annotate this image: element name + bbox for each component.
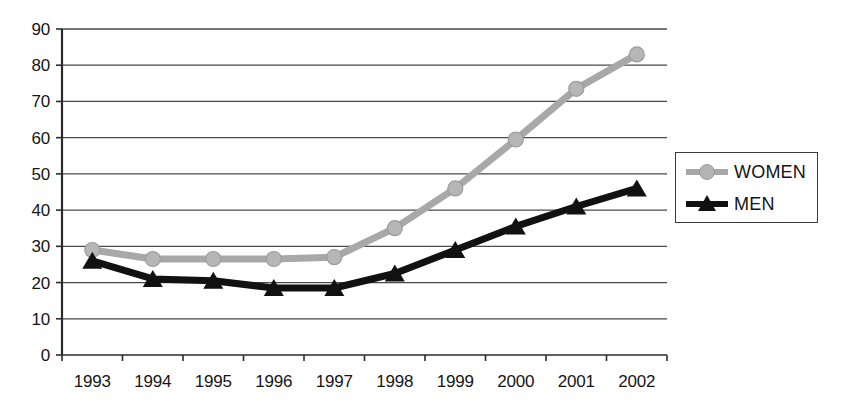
x-tick-label: 1999 [425, 373, 486, 390]
x-tick-label: 1997 [304, 373, 365, 390]
legend-label-men: MEN [734, 194, 775, 215]
series-line [92, 188, 637, 288]
y-tick-label: 50 [6, 166, 50, 183]
x-axis-ticks [62, 355, 667, 361]
x-tick-label: 1993 [62, 373, 123, 390]
triangle-marker-icon [684, 193, 730, 215]
data-point-marker [266, 252, 281, 267]
legend-item-men[interactable]: MEN [684, 193, 775, 215]
x-tick-label: 2002 [607, 373, 668, 390]
y-tick-label: 40 [6, 202, 50, 219]
data-point-marker [145, 252, 160, 267]
series-men [82, 179, 647, 296]
x-tick-label: 1994 [123, 373, 184, 390]
series-women [85, 47, 645, 267]
x-tick-label: 2000 [486, 373, 547, 390]
y-tick-label: 10 [6, 311, 50, 328]
legend-item-women[interactable]: WOMEN [684, 161, 806, 183]
y-tick-label: 60 [6, 130, 50, 147]
y-tick-label: 20 [6, 275, 50, 292]
line-chart: 0102030405060708090 19931994199519961997… [0, 0, 842, 413]
y-tick-label: 70 [6, 93, 50, 110]
data-point-marker [508, 132, 523, 147]
circle-marker-icon [684, 161, 730, 183]
data-point-marker [448, 181, 463, 196]
data-point-marker [387, 221, 402, 236]
x-tick-label: 1996 [244, 373, 305, 390]
x-tick-label: 1995 [183, 373, 244, 390]
series-line [92, 54, 637, 259]
data-point-marker [629, 47, 644, 62]
data-point-marker [569, 81, 584, 96]
data-point-marker [327, 250, 342, 265]
chart-legend: WOMEN MEN [675, 152, 818, 223]
data-series-layer [82, 47, 647, 296]
y-tick-label: 80 [6, 57, 50, 74]
y-tick-label: 0 [6, 347, 50, 364]
y-tick-label: 90 [6, 21, 50, 38]
data-point-marker [206, 252, 221, 267]
legend-label-women: WOMEN [734, 162, 806, 183]
x-tick-label: 1998 [365, 373, 426, 390]
x-tick-label: 2001 [546, 373, 607, 390]
y-tick-label: 30 [6, 238, 50, 255]
